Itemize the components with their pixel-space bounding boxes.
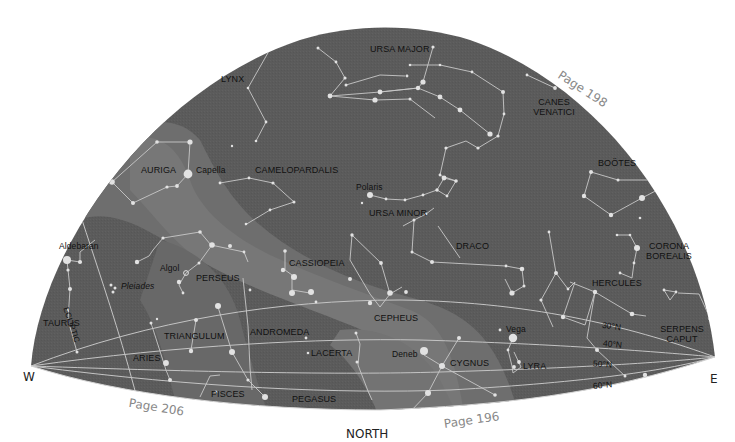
label-algol: Algol xyxy=(160,263,179,273)
label-serpens-caput-line1: SERPENS xyxy=(658,324,706,334)
label-pleiades: Pleiades xyxy=(121,281,154,291)
label-serpens-caput-line2: CAPUT xyxy=(658,334,706,344)
label-deneb: Deneb xyxy=(392,349,418,359)
label-canes-venatici: CANES VENATICI xyxy=(530,97,578,117)
compass-east: E xyxy=(710,372,718,386)
label-draco: DRACO xyxy=(456,241,489,251)
label-lat-50: 50°N xyxy=(593,358,613,369)
label-canes-venatici-line2: VENATICI xyxy=(530,107,578,117)
label-corona-borealis-line2: BOREALIS xyxy=(644,251,694,261)
label-cygnus: CYGNUS xyxy=(450,358,489,368)
label-andromeda: ANDROMEDA xyxy=(250,327,309,337)
label-vega: Vega xyxy=(506,324,526,334)
label-serpens-caput: SERPENS CAPUT xyxy=(658,324,706,344)
compass-north: NORTH xyxy=(346,427,388,441)
label-lat-60: 60°N xyxy=(593,379,613,391)
label-corona-borealis-line1: CORONA xyxy=(644,241,694,251)
star-chart xyxy=(0,0,735,442)
label-lat-40: 40°N xyxy=(603,338,623,350)
label-camelopardalis: CAMELOPARDALIS xyxy=(255,165,338,175)
label-ursa-minor: URSA MINOR xyxy=(369,208,427,218)
label-cassiopeia: CASSIOPEIA xyxy=(289,258,345,268)
label-polaris: Polaris xyxy=(356,182,383,192)
label-capella: Capella xyxy=(196,165,226,175)
label-lyra: LYRA xyxy=(523,361,546,371)
label-ursa-major: URSA MAJOR xyxy=(370,44,430,54)
label-canes-venatici-line1: CANES xyxy=(530,97,578,107)
label-corona-borealis: CORONA BOREALIS xyxy=(644,241,694,261)
label-lynx: LYNX xyxy=(221,74,244,84)
label-auriga: AURIGA xyxy=(141,165,176,175)
label-pegasus: PEGASUS xyxy=(292,394,336,404)
label-aries: ARIES xyxy=(133,353,161,363)
label-lacerta: LACERTA xyxy=(311,348,352,358)
label-triangulum: TRIANGULUM xyxy=(164,331,225,341)
label-bootes: BOÖTES xyxy=(598,158,636,168)
label-aldebaran: Aldebaran xyxy=(59,241,99,251)
label-cepheus: CEPHEUS xyxy=(374,313,418,323)
label-hercules: HERCULES xyxy=(592,278,642,288)
label-pisces: PISCES xyxy=(211,389,245,399)
label-perseus: PERSEUS xyxy=(196,273,240,283)
compass-west: W xyxy=(23,370,35,384)
